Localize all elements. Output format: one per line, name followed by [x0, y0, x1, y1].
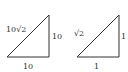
triangle-unit-vertical-leg-label: 1 — [121, 32, 126, 41]
triangle-unit-hypotenuse-label: √2 — [74, 29, 84, 38]
triangle-large-hypotenuse-label: 10√2 — [6, 25, 26, 34]
triangle-large: 10√2 10 10 — [6, 15, 62, 71]
triangle-large-horizontal-leg-label: 10 — [23, 62, 33, 71]
triangle-unit: √2 1 1 — [74, 15, 126, 71]
triangle-large-vertical-leg-label: 10 — [52, 32, 62, 41]
diagram-canvas: 10√2 10 10 √2 1 1 — [0, 0, 128, 72]
triangle-large-shape — [7, 15, 49, 57]
triangle-unit-horizontal-leg-label: 1 — [94, 62, 99, 71]
